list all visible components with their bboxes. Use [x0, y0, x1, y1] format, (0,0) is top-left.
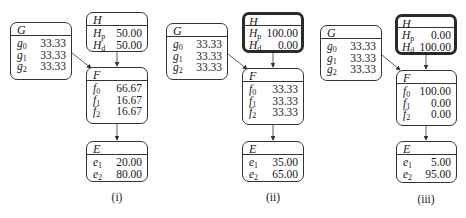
state-row: g033.33	[327, 41, 376, 53]
node-title: G	[321, 26, 381, 39]
node-title: H	[245, 15, 301, 26]
state-row: e135.00	[249, 157, 298, 169]
state-row: Hd50.00	[93, 40, 142, 52]
node-title: F	[397, 71, 456, 84]
panel-caption: (iii)	[406, 193, 446, 205]
node-title: F	[243, 69, 303, 82]
state-row: e120.00	[93, 157, 142, 169]
node-g[interactable]: G g033.33 g133.33 g233.33	[320, 25, 382, 81]
node-h[interactable]: H Hp50.00 Hd50.00	[86, 12, 148, 52]
panel-caption: (i)	[97, 191, 137, 203]
node-title: E	[243, 142, 303, 155]
node-title: E	[87, 142, 147, 155]
panel-caption: (ii)	[253, 191, 293, 203]
state-row: Hd100.00	[402, 42, 451, 54]
node-f[interactable]: F f066.67 f116.67 f216.67	[86, 67, 148, 124]
state-row: Hd0.00	[249, 40, 298, 52]
node-e[interactable]: E e135.00 e265.00	[242, 141, 304, 182]
node-h-evidence[interactable]: H Hp100.00 Hd0.00	[242, 12, 304, 53]
state-row: e280.00	[93, 169, 142, 181]
state-row: e15.00	[403, 157, 451, 169]
node-title: E	[397, 142, 456, 155]
state-row: g033.33	[173, 39, 222, 51]
node-h-evidence[interactable]: H Hp0.00 Hd100.00	[395, 14, 457, 55]
state-row: g233.33	[327, 64, 376, 76]
node-e[interactable]: E e15.00 e295.00	[396, 141, 457, 183]
state-row: g233.33	[173, 62, 222, 74]
state-row: e265.00	[249, 169, 298, 181]
state-row: f066.67	[93, 83, 142, 95]
state-row: g233.33	[17, 61, 66, 73]
state-row: f20.00	[403, 109, 451, 121]
edge-g-f-iii	[382, 55, 400, 70]
state-row: e295.00	[403, 169, 451, 181]
state-row: f0100.00	[403, 86, 451, 98]
state-row: f216.67	[93, 106, 142, 118]
node-title: H	[398, 17, 454, 28]
node-g[interactable]: G g033.33 g133.33 g233.33	[10, 22, 72, 80]
state-row: f033.33	[249, 84, 298, 96]
node-title: H	[87, 13, 147, 26]
node-title: F	[87, 68, 147, 81]
node-g[interactable]: G g033.33 g133.33 g233.33	[166, 23, 228, 80]
edge-g-f-i	[72, 53, 91, 68]
state-row: f233.33	[249, 107, 298, 119]
node-f[interactable]: F f033.33 f133.33 f233.33	[242, 68, 304, 125]
node-title: G	[11, 23, 71, 36]
node-e[interactable]: E e120.00 e280.00	[86, 141, 148, 182]
node-title: G	[167, 24, 227, 37]
node-f[interactable]: F f0100.00 f10.00 f20.00	[396, 70, 457, 126]
state-row: g033.33	[17, 38, 66, 50]
edge-g-f-ii	[228, 54, 247, 69]
